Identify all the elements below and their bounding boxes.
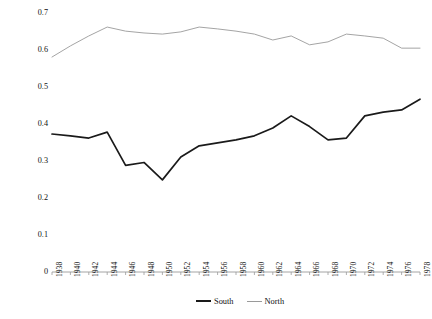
x-axis-tick: 1938 — [56, 262, 64, 277]
x-axis-tick: 1960 — [258, 262, 266, 277]
legend-item-south[interactable]: South — [196, 297, 234, 306]
x-axis-tick: 1968 — [332, 262, 340, 277]
legend-item-north[interactable]: North — [247, 297, 285, 306]
x-axis-tick-labels: 1938194019421944194619481950195219541956… — [0, 0, 432, 319]
legend-swatch-north-icon — [247, 301, 262, 302]
legend-swatch-south-icon — [196, 300, 211, 302]
chart-container: Difference in Mean Party DW-NOMINATE Sco… — [0, 0, 432, 319]
x-axis-tick: 1950 — [166, 262, 174, 277]
legend-label: South — [214, 297, 234, 306]
x-axis-tick: 1970 — [350, 262, 358, 277]
x-axis-tick: 1962 — [276, 262, 284, 277]
x-axis-tick: 1974 — [387, 262, 395, 277]
x-axis-tick: 1948 — [148, 262, 156, 277]
x-axis-tick: 1976 — [405, 262, 413, 277]
x-axis-tick: 1978 — [424, 262, 432, 277]
x-axis-tick: 1956 — [221, 262, 229, 277]
x-axis-tick: 1944 — [111, 262, 119, 277]
x-axis-tick: 1952 — [184, 262, 192, 277]
legend-label: North — [265, 297, 285, 306]
x-axis-tick: 1954 — [203, 262, 211, 277]
x-axis-tick: 1942 — [92, 262, 100, 277]
x-axis-tick: 1946 — [129, 262, 137, 277]
chart-legend: SouthNorth — [196, 295, 284, 307]
x-axis-tick: 1940 — [74, 262, 82, 277]
x-axis-tick: 1958 — [240, 262, 248, 277]
x-axis-tick: 1972 — [368, 262, 376, 277]
x-axis-tick: 1966 — [313, 262, 321, 277]
x-axis-tick: 1964 — [295, 262, 303, 277]
